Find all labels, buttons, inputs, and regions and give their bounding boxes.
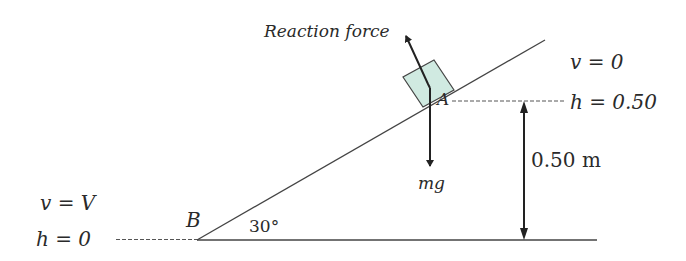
bottom-velocity-label: v = V <box>40 193 95 213</box>
top-height-label: h = 0.50 <box>570 92 657 112</box>
bottom-height-label: h = 0 <box>36 229 91 249</box>
top-velocity-label: v = 0 <box>570 52 624 72</box>
weight-label: mg <box>418 175 445 192</box>
angle-label: 30° <box>249 218 279 235</box>
incline-line <box>197 40 545 240</box>
height-arrow-top-head <box>520 101 528 113</box>
height-arrow-bottom-head <box>520 228 528 240</box>
incline-diagram: Reaction force A mg B 30° 0.50 m v = 0 h… <box>0 0 686 261</box>
point-b-label: B <box>186 210 201 230</box>
point-a-label: A <box>437 91 449 108</box>
reaction-force-label: Reaction force <box>264 23 390 40</box>
height-dimension-label: 0.50 m <box>531 150 601 170</box>
